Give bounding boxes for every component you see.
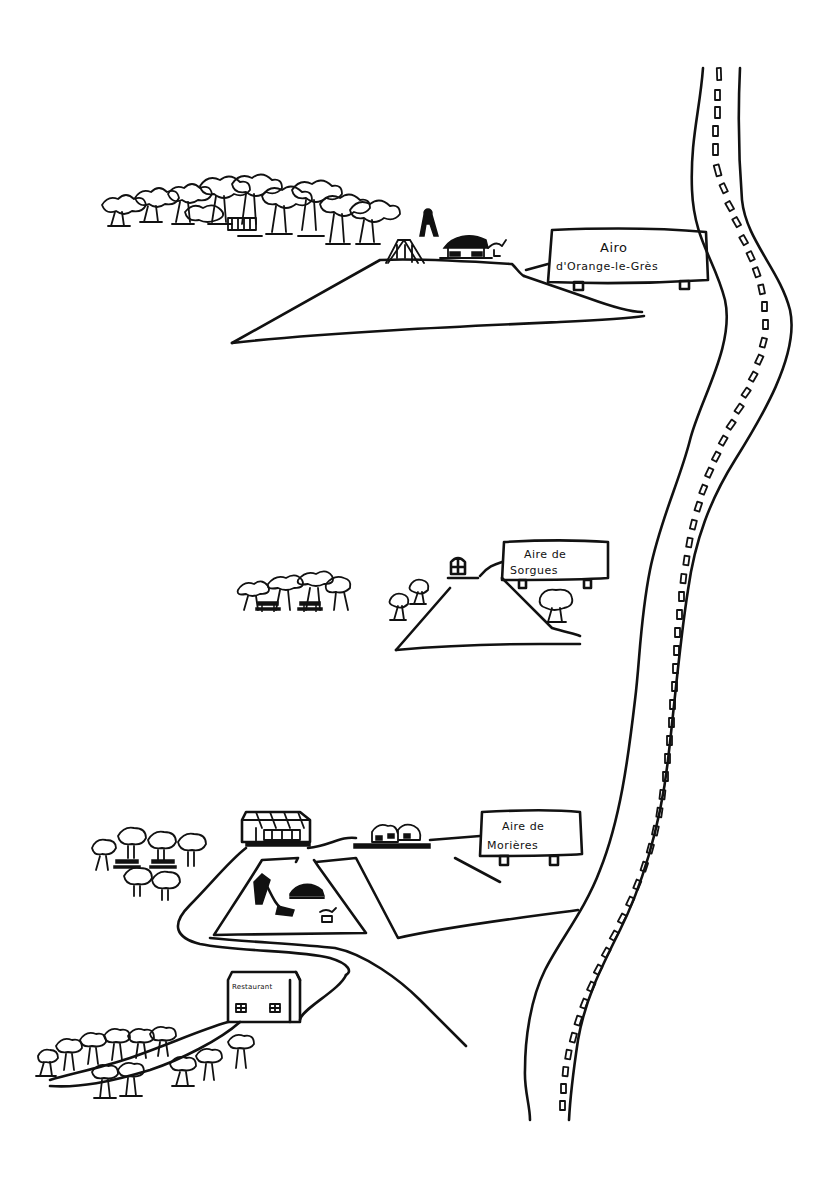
sign-line1: Airo [600, 240, 628, 255]
tree-icon [540, 590, 573, 622]
rest-area-morieres: Aire de Morières Restaurant [36, 811, 582, 1099]
highway-right-edge [569, 68, 792, 1120]
path-shop-to-fuel [308, 838, 356, 848]
sign-sorgues: Aire de Sorgues [502, 541, 608, 589]
toilet-block-icon [448, 558, 478, 578]
highway-left-edge [525, 68, 727, 1120]
sign-line1: Aire de [524, 548, 566, 561]
shop-building-icon [242, 812, 310, 846]
sign-line2: Sorgues [510, 564, 558, 577]
picnic-shelter-icon [440, 236, 492, 258]
road-to-restaurant [300, 975, 346, 1020]
sign-morieres: Aire de Morières [480, 811, 582, 866]
picnic-trees-icon [238, 571, 351, 610]
sign-orange-le-gres: Airo d'Orange-le-Grès [548, 229, 708, 290]
picnic-trees-icon [92, 828, 206, 900]
picnic-table-icon [114, 860, 140, 868]
picnic-table-icon [150, 860, 176, 868]
loop-road-inner [210, 938, 466, 1046]
spring-rider-icon [320, 908, 336, 922]
highway [525, 68, 792, 1120]
mound-base [232, 316, 644, 343]
restaurant-icon: Restaurant [228, 972, 300, 1022]
slide-icon [254, 874, 294, 916]
path-fuel-to-sign [430, 836, 480, 840]
restaurant-label: Restaurant [232, 983, 272, 991]
rest-area-map: Airo d'Orange-le-Grès [0, 0, 836, 1186]
fuel-station-icon [354, 825, 430, 848]
rest-area-sorgues: Aire de Sorgues [238, 541, 608, 651]
parking-lot [316, 858, 578, 938]
mound-base [396, 644, 580, 650]
spring-rider-icon [488, 240, 506, 256]
sign-line1: Aire de [502, 820, 544, 833]
tree-icon [390, 580, 429, 620]
sandpit-icon [290, 884, 324, 898]
loop-road [178, 848, 349, 975]
climbing-frame-icon [420, 209, 438, 236]
picnic-table-icon [298, 602, 322, 612]
sign-line2: Morières [487, 839, 538, 852]
forest-icon [102, 174, 400, 244]
rest-area-orange-le-gres: Airo d'Orange-le-Grès [102, 174, 708, 343]
sign-line2: d'Orange-le-Grès [556, 260, 658, 273]
